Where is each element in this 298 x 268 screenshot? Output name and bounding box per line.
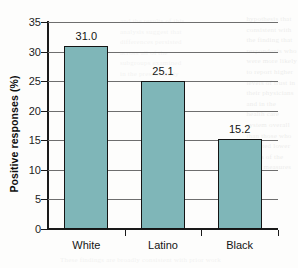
y-axis-tick (41, 22, 48, 23)
y-axis-tick-label: 0 (11, 223, 41, 235)
bar (141, 81, 185, 229)
bar (64, 46, 108, 229)
x-axis-category-label: Black (226, 239, 253, 251)
bar-chart: Positive responses (%) 05101520253035 31… (0, 0, 298, 268)
x-axis-category-label: White (72, 239, 100, 251)
y-axis-tick-label: 35 (11, 16, 41, 28)
y-axis-tick-labels: 05101520253035 (8, 0, 41, 268)
gridline (48, 22, 278, 23)
y-axis-tick (41, 52, 48, 53)
y-axis-tick (41, 81, 48, 82)
bar-value-label: 31.0 (76, 30, 97, 42)
x-axis-tick (201, 230, 202, 236)
x-axis-tick (125, 230, 126, 236)
bar-value-label: 25.1 (152, 65, 173, 77)
bar (218, 139, 262, 229)
bar-value-label: 15.2 (229, 123, 250, 135)
y-axis-tick (41, 229, 48, 230)
y-axis-tick-label: 15 (11, 134, 41, 146)
y-axis-tick-label: 30 (11, 46, 41, 58)
y-axis-tick (41, 199, 48, 200)
y-axis-tick-label: 20 (11, 105, 41, 117)
y-axis-tick (41, 170, 48, 171)
y-axis-tick (41, 111, 48, 112)
y-axis-tick-label: 10 (11, 164, 41, 176)
y-axis-tick (41, 140, 48, 141)
x-axis-category-label: Latino (148, 239, 178, 251)
y-axis-tick-label: 5 (11, 193, 41, 205)
y-axis-tick-label: 25 (11, 75, 41, 87)
x-axis-tick (278, 230, 279, 236)
